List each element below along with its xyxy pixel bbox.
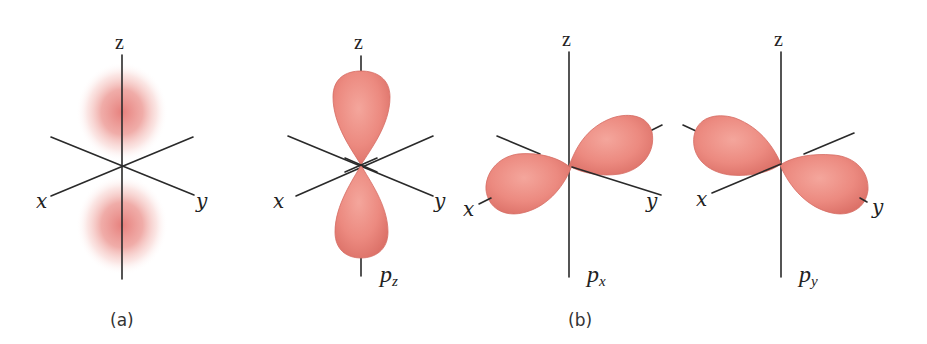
y-axis-back xyxy=(683,125,696,131)
z-axis-label: z xyxy=(354,31,363,53)
orbital-label-px: px xyxy=(585,261,606,289)
orbital-pz: z x y pz xyxy=(273,31,446,289)
z-axis-label: z xyxy=(774,28,783,50)
p-orbitals-figure: z x y (a) z x y pz xyxy=(0,0,927,344)
panel-a: z x y (a) xyxy=(36,31,208,330)
y-axis-back xyxy=(497,136,540,154)
orbital-label-pz: pz xyxy=(378,261,398,289)
py-back-lobe xyxy=(694,116,781,176)
z-axis-label: z xyxy=(562,28,571,50)
py-front-lobe xyxy=(780,154,868,213)
y-axis-label: y xyxy=(871,195,884,219)
px-back-lobe xyxy=(569,115,653,175)
orbital-px: z x y px (b) xyxy=(463,28,662,330)
panel-b-caption: (b) xyxy=(568,310,592,330)
orbital-label-py: py xyxy=(797,261,818,289)
x-axis-label: x xyxy=(696,187,707,211)
y-axis-label: y xyxy=(645,189,658,213)
z-axis-label: z xyxy=(115,31,124,53)
px-front-lobe xyxy=(486,154,571,214)
pz-lower-lobe xyxy=(335,165,388,258)
panel-a-caption: (a) xyxy=(110,310,134,330)
y-axis-label: y xyxy=(433,189,446,213)
x-axis-label: x xyxy=(273,189,284,213)
pz-upper-lobe xyxy=(333,71,390,165)
x-axis-label: x xyxy=(463,197,474,221)
y-axis-label: y xyxy=(195,189,208,213)
x-axis-back xyxy=(804,133,854,154)
x-axis-label: x xyxy=(36,189,47,213)
orbital-py: z x y py xyxy=(683,28,884,289)
